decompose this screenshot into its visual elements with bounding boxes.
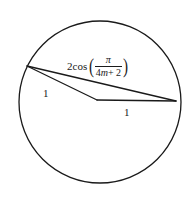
left-side-segment [27,66,97,100]
long-chord-segment [27,66,176,101]
geometry-diagram [0,0,191,205]
figure-canvas: 2cos( π 4m+ 2 ) 1 1 [0,0,191,205]
right-side-segment [97,100,176,101]
circle-outline [19,21,181,183]
